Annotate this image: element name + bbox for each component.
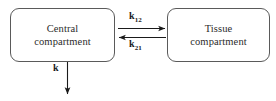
tissue-compartment-label-line1: Tissue <box>205 22 233 35</box>
k12-subscript: 12 <box>135 16 142 24</box>
k-base: k <box>53 62 59 73</box>
central-compartment-label-line1: Central <box>47 22 79 35</box>
rate-constant-k-label: k <box>53 62 59 73</box>
rate-constant-k12-label: k12 <box>129 10 142 21</box>
central-compartment-box: Central compartment <box>10 8 115 62</box>
rate-constant-k21-label: k21 <box>129 38 142 49</box>
k21-subscript: 21 <box>135 44 142 52</box>
k12-base: k <box>129 10 135 21</box>
tissue-compartment-box: Tissue compartment <box>167 8 270 62</box>
tissue-compartment-label-line2: compartment <box>190 35 247 48</box>
central-compartment-label-line2: compartment <box>34 35 91 48</box>
two-compartment-model-diagram: Central compartment Tissue compartment k… <box>0 0 276 101</box>
k21-base: k <box>129 38 135 49</box>
